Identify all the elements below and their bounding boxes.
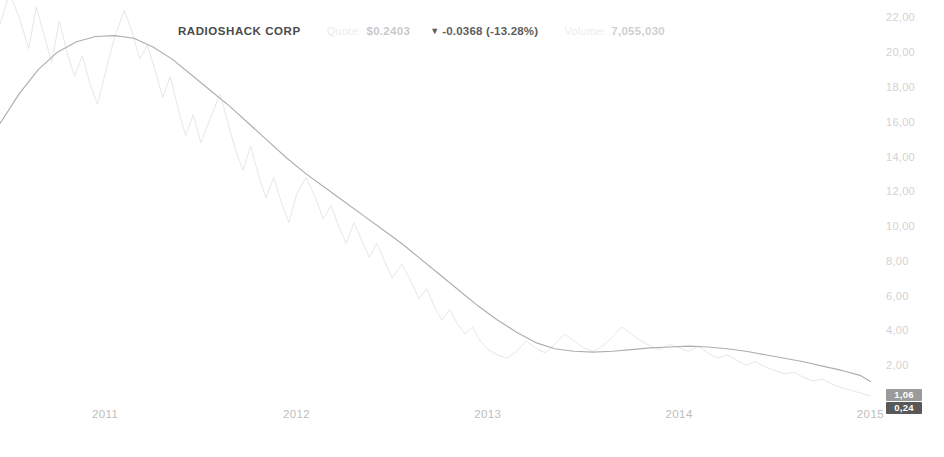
down-arrow-icon: ▼ — [430, 26, 439, 36]
symbol-label: RADIOSHACK CORP — [178, 25, 301, 37]
y-axis-tick: 14,00 — [886, 151, 915, 163]
quote-bar: RADIOSHACK CORP Quote: $0.2403 ▼ -0.0368… — [178, 25, 665, 43]
volume-value: 7,055,030 — [611, 25, 665, 37]
volume-label: Volume: — [564, 25, 606, 37]
y-axis-tick: 18,00 — [886, 81, 915, 93]
y-axis-tick: 4,00 — [886, 324, 909, 336]
y-axis-tick: 6,00 — [886, 290, 909, 302]
moving-average-badge: 1,06 — [886, 389, 922, 401]
last-price-badge: 0,24 — [886, 402, 922, 414]
y-axis-tick: 12,00 — [886, 185, 915, 197]
chart-canvas[interactable] — [0, 0, 880, 400]
series-price — [0, 0, 870, 396]
quote-value: $0.2403 — [366, 25, 410, 37]
chart-plot-area[interactable] — [0, 0, 880, 400]
x-axis-tick: 2013 — [474, 408, 501, 420]
x-axis-tick: 2014 — [666, 408, 693, 420]
x-axis-tick: 2012 — [283, 408, 310, 420]
x-axis-tick: 2011 — [92, 408, 118, 420]
y-axis: 22,0020,0018,0016,0014,0012,0010,008,006… — [886, 0, 944, 400]
stock-chart-screen: RADIOSHACK CORP Quote: $0.2403 ▼ -0.0368… — [0, 0, 944, 457]
change-value: -0.0368 (-13.28%) — [442, 25, 538, 37]
x-axis-tick: 2015 — [857, 408, 884, 420]
x-axis: 20112012201320142015 — [0, 408, 880, 432]
y-axis-tick: 8,00 — [886, 255, 909, 267]
quote-label: Quote: — [327, 25, 362, 37]
y-axis-tick: 16,00 — [886, 116, 915, 128]
y-axis-tick: 2,00 — [886, 359, 909, 371]
change-group: ▼ -0.0368 (-13.28%) — [430, 25, 538, 37]
y-axis-tick: 10,00 — [886, 220, 915, 232]
value-badges: 1,060,24 — [886, 389, 922, 415]
y-axis-tick: 20,00 — [886, 46, 915, 58]
y-axis-tick: 22,00 — [886, 11, 915, 23]
series-moving-average — [0, 36, 870, 382]
